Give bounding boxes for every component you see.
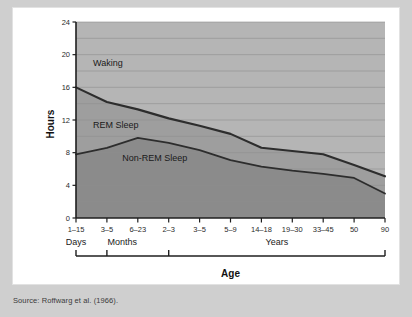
x-axis-tick-label: 3–5 bbox=[193, 225, 206, 234]
y-axis-tick-label: 4 bbox=[66, 181, 70, 190]
group-label-months: Months bbox=[108, 237, 138, 247]
band-label-non-rem-sleep: Non-REM Sleep bbox=[122, 153, 187, 163]
band-label-waking: Waking bbox=[93, 58, 123, 68]
group-label-days: Days bbox=[66, 237, 87, 247]
x-axis-title: Age bbox=[221, 268, 240, 279]
y-axis-title: Hours bbox=[45, 125, 56, 139]
x-axis-tick-label: 5–9 bbox=[224, 225, 237, 234]
x-axis-tick-label: 90 bbox=[381, 225, 389, 234]
x-axis-tick-label: 19–30 bbox=[282, 225, 303, 234]
y-axis-tick-label: 12 bbox=[62, 116, 70, 125]
y-axis-tick-label: 20 bbox=[62, 50, 70, 59]
x-axis-tick-label: 3–5 bbox=[101, 225, 114, 234]
x-axis-tick-label: 50 bbox=[350, 225, 358, 234]
x-axis-tick-label: 14–18 bbox=[251, 225, 272, 234]
x-axis-tick-label: 6–23 bbox=[129, 225, 146, 234]
y-axis-tick-label: 8 bbox=[66, 148, 70, 157]
y-axis-tick-label: 16 bbox=[62, 83, 70, 92]
source-caption: Source: Roffwarg et al. (1966). bbox=[13, 296, 118, 305]
figure-panel: Hours 048121620241–153–56–232–33–55–914–… bbox=[13, 8, 399, 284]
band-label-rem-sleep: REM Sleep bbox=[93, 120, 139, 130]
y-axis-tick-label: 0 bbox=[66, 214, 70, 223]
x-axis-tick-label: 1–15 bbox=[68, 225, 85, 234]
group-label-years: Years bbox=[266, 237, 289, 247]
x-axis-tick-label: 2–3 bbox=[162, 225, 175, 234]
y-axis-tick-label: 24 bbox=[62, 18, 70, 27]
sleep-across-lifespan-chart: 048121620241–153–56–232–33–55–914–1819–3… bbox=[13, 8, 399, 284]
x-axis-tick-label: 33–45 bbox=[313, 225, 334, 234]
